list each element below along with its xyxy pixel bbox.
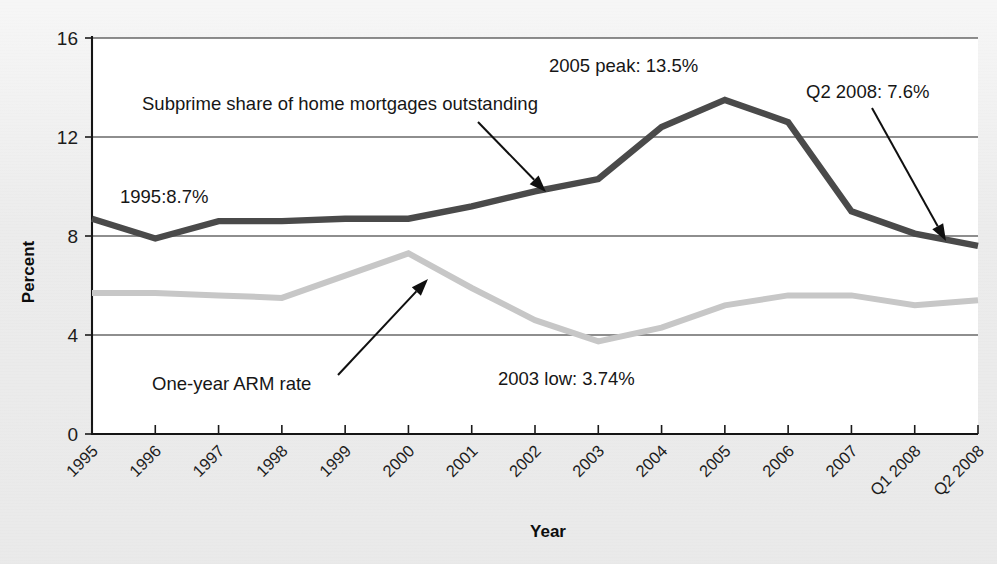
y-axis-ticks: 0481216 <box>57 28 92 445</box>
x-tick-label-2006: 2006 <box>759 441 798 480</box>
annotation-peak-2005: 2005 peak: 13.5% <box>549 55 698 76</box>
x-axis-title: Year <box>530 522 566 541</box>
x-tick-label-1997: 1997 <box>189 441 228 480</box>
annotation-value-q2-2008: Q2 2008: 7.6% <box>806 81 929 102</box>
x-tick-label-2005: 2005 <box>695 441 734 480</box>
annotation-series-label-arm: One-year ARM rate <box>152 373 311 394</box>
y-tick-label-8: 8 <box>67 226 78 247</box>
x-tick-label-q2-2008: Q2 2008 <box>930 441 987 498</box>
annotation-series-label-subprime: Subprime share of home mortgages outstan… <box>142 93 538 114</box>
y-axis-title: Percent <box>19 240 38 303</box>
y-tick-label-0: 0 <box>67 424 78 445</box>
x-tick-label-1995: 1995 <box>62 441 101 480</box>
annotation-low-2003: 2003 low: 3.74% <box>498 368 635 389</box>
x-tick-label-1998: 1998 <box>252 441 291 480</box>
y-tick-label-16: 16 <box>57 28 78 49</box>
x-tick-label-2003: 2003 <box>569 441 608 480</box>
y-tick-label-12: 12 <box>57 127 78 148</box>
x-tick-label-2004: 2004 <box>632 441 671 480</box>
y-tick-label-4: 4 <box>67 325 78 346</box>
x-axis-tick-labels: 1995199619971998199920002001200220032004… <box>62 441 987 498</box>
x-tick-label-2007: 2007 <box>822 441 861 480</box>
x-tick-label-2001: 2001 <box>442 441 481 480</box>
x-tick-label-2000: 2000 <box>379 441 418 480</box>
line-chart: 0481216 19951996199719981999200020012002… <box>0 0 997 564</box>
x-tick-label-1996: 1996 <box>126 441 165 480</box>
x-tick-label-1999: 1999 <box>316 441 355 480</box>
x-tick-label-q1-2008: Q1 2008 <box>866 441 923 498</box>
annotation-value-1995: 1995:8.7% <box>120 186 208 207</box>
x-tick-label-2002: 2002 <box>505 441 544 480</box>
